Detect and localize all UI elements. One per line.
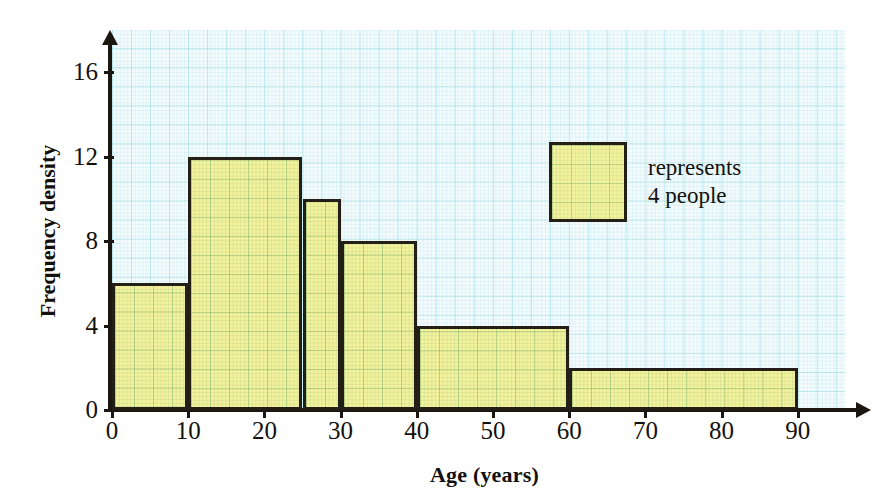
x-axis-tick-label: 90 [773, 418, 823, 443]
histogram-bar [341, 241, 417, 410]
x-axis-tick-label: 70 [620, 418, 670, 443]
histogram-bar [569, 368, 798, 410]
y-axis-arrow-icon [102, 30, 118, 45]
y-axis-tick [104, 409, 112, 412]
x-axis-tick-label: 10 [163, 418, 213, 443]
y-axis-tick-label: 0 [58, 397, 98, 422]
y-axis-tick-label: 16 [58, 59, 98, 84]
legend: represents 4 people [549, 142, 741, 222]
legend-line-2: 4 people [648, 182, 741, 210]
legend-line-1: represents [648, 154, 741, 182]
histogram-bar [303, 199, 341, 410]
y-axis-tick-label: 8 [58, 228, 98, 253]
x-axis-title: Age (years) [0, 462, 879, 488]
histogram-bar [188, 157, 302, 410]
legend-swatch [549, 142, 627, 222]
histogram-figure: represents 4 people Age (years) Frequenc… [0, 0, 879, 504]
x-axis-tick-label: 20 [239, 418, 289, 443]
y-axis-tick-label: 4 [58, 313, 98, 338]
x-axis-tick-label: 60 [544, 418, 594, 443]
y-axis-tick-label: 12 [58, 144, 98, 169]
histogram-bar [112, 283, 188, 410]
histogram-bar [417, 326, 569, 410]
legend-text: represents 4 people [648, 154, 741, 210]
x-axis-title-text: Age (years) [340, 462, 539, 487]
x-axis-tick-label: 80 [697, 418, 747, 443]
x-axis-arrow-icon [856, 402, 871, 418]
x-axis-tick-label: 50 [468, 418, 518, 443]
y-axis-tick [104, 240, 114, 243]
y-axis-tick [104, 71, 114, 74]
x-axis-tick-label: 40 [392, 418, 442, 443]
x-axis-tick-label: 30 [316, 418, 366, 443]
y-axis-tick [104, 156, 114, 159]
